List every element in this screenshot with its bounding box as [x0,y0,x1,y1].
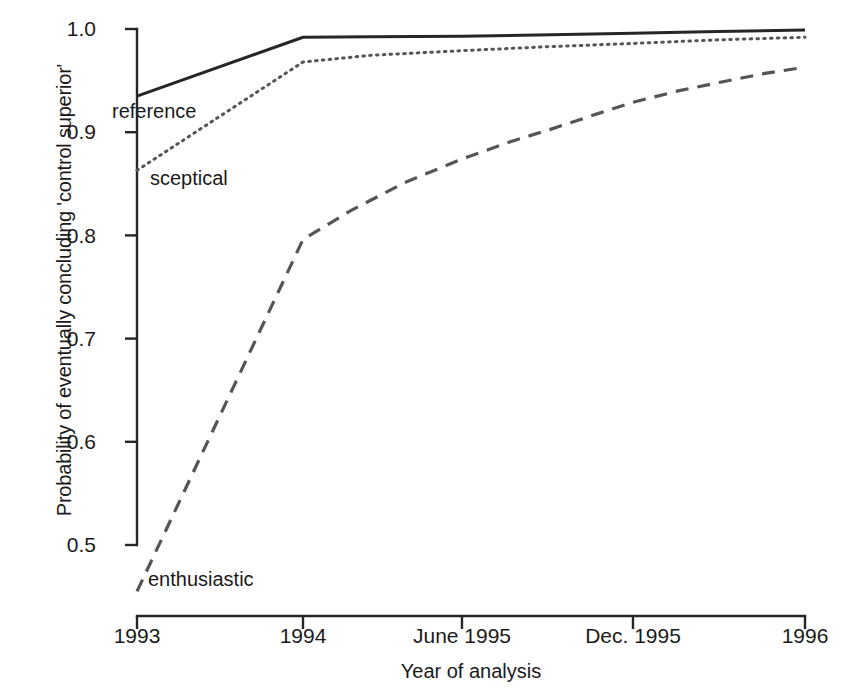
series-line-sceptical [137,37,805,170]
x-axis-ticks [137,616,805,629]
y-axis-ticks [125,29,137,545]
y-axis [125,29,137,545]
series-line-enthusiastic [137,67,805,591]
plot-area [0,0,843,695]
chart-figure: Probability of eventually concluding 'co… [0,0,843,695]
x-axis [137,616,805,629]
data-series-group [137,30,805,591]
